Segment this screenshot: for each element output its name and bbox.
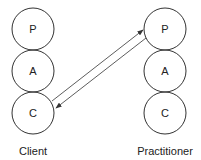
practitioner-adult-label: A	[161, 65, 169, 77]
pac-diagram: P A C Client P A C Practitioner	[0, 0, 201, 160]
client-adult-label: A	[29, 65, 37, 77]
client-column: P A C Client	[12, 8, 54, 157]
practitioner-child-label: C	[161, 107, 169, 119]
arrow-client-to-practitioner	[52, 30, 143, 101]
practitioner-parent-label: P	[161, 23, 168, 35]
client-parent-label: P	[29, 23, 36, 35]
practitioner-label: Practitioner	[137, 145, 193, 157]
arrow-practitioner-to-client	[56, 38, 146, 108]
client-child-label: C	[29, 107, 37, 119]
client-label: Client	[19, 145, 47, 157]
practitioner-column: P A C Practitioner	[137, 8, 193, 157]
